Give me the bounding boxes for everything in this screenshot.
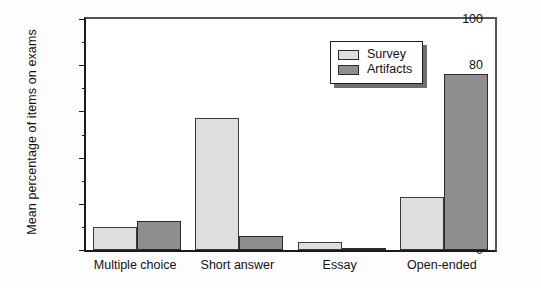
y-axis-title: Mean percentage of items on exams	[25, 12, 39, 252]
y-tick-major	[79, 250, 86, 251]
y-tick-major	[79, 19, 86, 20]
bar-artifacts-2	[342, 248, 386, 250]
y-tick-major	[79, 111, 86, 112]
y-tick-minor	[82, 88, 86, 89]
legend-label-survey: Survey	[367, 47, 406, 62]
y-tick-minor	[82, 181, 86, 182]
bar-chart-figure: Mean percentage of items on exams 020406…	[0, 0, 541, 288]
bar-survey-0	[93, 227, 137, 250]
y-tick-minor	[82, 42, 86, 43]
y-tick-major	[79, 65, 86, 66]
plot-area: 020406080100	[84, 17, 497, 252]
legend-item-artifacts: Artifacts	[338, 62, 412, 77]
x-tick-label: Short answer	[201, 258, 275, 272]
y-tick-major	[79, 158, 86, 159]
y-tick-minor	[82, 135, 86, 136]
bar-artifacts-1	[239, 236, 283, 250]
y-tick-label: 100	[462, 12, 483, 26]
x-tick-label: Multiple choice	[94, 258, 177, 272]
y-tick-minor	[82, 227, 86, 228]
bar-artifacts-0	[137, 221, 181, 250]
y-tick-label: 80	[469, 58, 483, 72]
bar-survey-1	[195, 118, 239, 250]
legend-swatch-survey-icon	[338, 50, 359, 60]
chart-legend: Survey Artifacts	[330, 41, 423, 84]
x-tick-label: Open-ended	[407, 258, 477, 272]
bar-survey-2	[298, 242, 342, 250]
x-tick-label: Essay	[323, 258, 357, 272]
legend-swatch-artifacts-icon	[338, 65, 359, 75]
y-tick-major	[79, 204, 86, 205]
bar-survey-3	[400, 197, 444, 250]
legend-item-survey: Survey	[338, 47, 412, 62]
legend-label-artifacts: Artifacts	[367, 62, 412, 77]
bar-artifacts-3	[444, 74, 488, 250]
